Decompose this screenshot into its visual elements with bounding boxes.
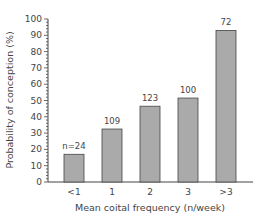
y-tick-label: 20 [31, 144, 43, 154]
y-tick-label: 70 [31, 63, 43, 73]
y-tick-label: 60 [31, 79, 43, 89]
y-tick-label: 80 [31, 47, 43, 57]
y-axis-title: Probability of conception (%) [4, 31, 15, 168]
x-tick-label: 2 [147, 187, 153, 197]
x-axis-title: Mean coital frequency (n/week) [75, 202, 225, 213]
y-tick-label: 10 [31, 161, 43, 171]
bar-annotation: 109 [104, 116, 120, 126]
x-tick-label: 3 [185, 187, 191, 197]
bars: n=24<110911232100372>3 [62, 17, 236, 197]
bar-annotation: 100 [180, 85, 196, 95]
x-tick-label: 1 [109, 187, 115, 197]
x-tick-label: >3 [219, 187, 232, 197]
bar [140, 106, 160, 182]
bar-annotation: 123 [142, 93, 158, 103]
bar [102, 129, 122, 182]
bar-annotation: 72 [221, 17, 232, 27]
bar-annotation: n=24 [62, 141, 85, 151]
bar-chart: 0102030405060708090100 n=24<110911232100… [0, 0, 272, 223]
y-tick-label: 0 [36, 177, 42, 187]
y-tick-label: 100 [25, 14, 42, 24]
bar [64, 154, 84, 182]
bar [216, 30, 236, 182]
y-tick-label: 40 [31, 112, 43, 122]
x-tick-label: <1 [67, 187, 80, 197]
y-tick-label: 90 [31, 30, 43, 40]
y-axis-ticks: 0102030405060708090100 [25, 14, 48, 187]
bar [178, 98, 198, 182]
y-tick-label: 30 [31, 128, 43, 138]
y-tick-label: 50 [31, 96, 43, 106]
